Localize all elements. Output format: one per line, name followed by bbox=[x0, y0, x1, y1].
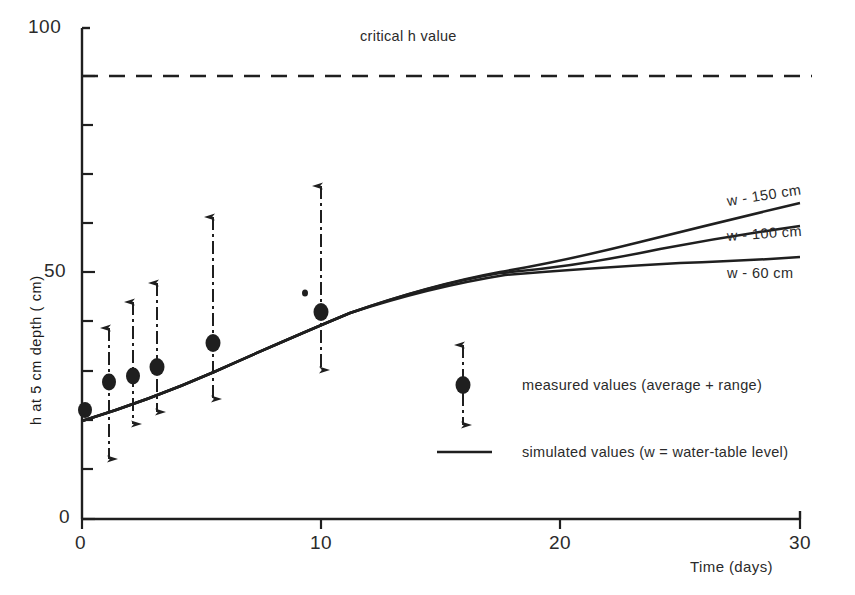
critical-h-value-label: critical h value bbox=[360, 28, 457, 44]
x-axis-ticks bbox=[82, 519, 800, 529]
y-axis-ticks bbox=[82, 76, 95, 519]
x-tick-label-30: 30 bbox=[789, 532, 811, 554]
datapoint-day-5 bbox=[206, 217, 221, 399]
legend-label-simulated: simulated values (w = water-table level) bbox=[522, 444, 788, 460]
legend-symbols bbox=[437, 345, 492, 452]
chart-canvas bbox=[0, 0, 855, 595]
legend-marker-symbol bbox=[456, 376, 471, 394]
x-tick-label-0: 0 bbox=[75, 532, 86, 554]
y-axis-title: h at 5 cm depth ( cm) bbox=[28, 275, 44, 425]
chart-figure: 100 50 0 0 10 20 30 h at 5 cm depth ( cm… bbox=[0, 0, 855, 595]
y-tick-label-50: 50 bbox=[44, 260, 66, 282]
datapoint-day-1 bbox=[102, 328, 116, 459]
x-tick-label-20: 20 bbox=[549, 532, 571, 554]
datapoint-day-0 bbox=[78, 402, 92, 418]
y-tick-label-100: 100 bbox=[28, 16, 61, 38]
curve-label-w-60: w - 60 cm bbox=[727, 265, 793, 281]
x-tick-label-10: 10 bbox=[310, 532, 332, 554]
measured-data-points bbox=[78, 186, 329, 459]
curve-w-60 bbox=[82, 257, 800, 421]
x-axis-title: Time (days) bbox=[690, 558, 773, 575]
legend-label-measured: measured values (average + range) bbox=[522, 377, 762, 393]
datapoint-day-10 bbox=[302, 186, 329, 370]
y-tick-label-0: 0 bbox=[59, 506, 70, 528]
